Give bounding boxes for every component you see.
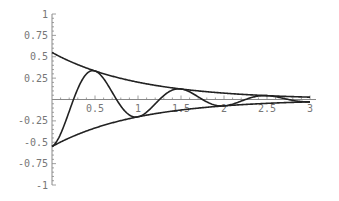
axes: 10.750.50.25-0.25-0.5-0.75-10.511.522.53 bbox=[18, 9, 316, 191]
y-tick-label: -0.75 bbox=[18, 158, 48, 169]
x-tick-label: 0.5 bbox=[86, 103, 104, 114]
y-tick-label: -0.25 bbox=[18, 115, 48, 126]
y-tick-label: 0.75 bbox=[24, 30, 48, 41]
x-tick-label: 3 bbox=[307, 103, 313, 114]
y-tick-label: -0.5 bbox=[24, 137, 48, 148]
y-tick-label: -1 bbox=[36, 180, 48, 191]
x-tick-label: 2 bbox=[221, 103, 227, 114]
y-tick-label: 1 bbox=[42, 9, 48, 20]
plot-area: 10.750.50.25-0.25-0.5-0.75-10.511.522.53 bbox=[0, 0, 339, 201]
y-tick-label: 0.25 bbox=[24, 73, 48, 84]
x-tick-label: 1.5 bbox=[172, 103, 190, 114]
y-tick-label: 0.5 bbox=[30, 51, 48, 62]
upper-envelope-curve bbox=[52, 52, 310, 97]
x-tick-label: 1 bbox=[135, 103, 141, 114]
